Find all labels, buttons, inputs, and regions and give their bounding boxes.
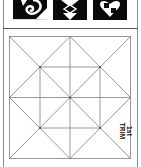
trim-label-line2: TRIM [119,116,126,146]
trim-label: 1st TRIM [111,116,133,146]
trim-label-line1: 1st [126,116,133,146]
